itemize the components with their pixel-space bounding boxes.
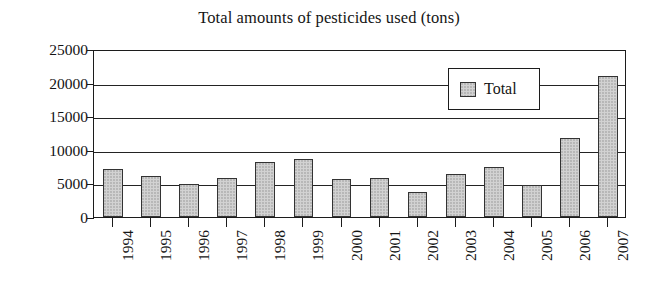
y-tick-label-20000: 20000 xyxy=(2,76,88,91)
bar-1999 xyxy=(294,159,314,218)
x-tick-label-2007: 2007 xyxy=(615,230,631,261)
bar-2003 xyxy=(446,174,466,217)
y-tick-label-10000: 10000 xyxy=(2,143,88,158)
x-tick-mark-1998 xyxy=(264,218,265,227)
x-tick-label-2002: 2002 xyxy=(425,230,441,261)
x-tick-mark-2006 xyxy=(569,218,570,227)
bar-1997 xyxy=(217,178,237,217)
x-tick-label-1997: 1997 xyxy=(234,230,250,261)
x-tick-label-1999: 1999 xyxy=(310,230,326,261)
x-tick-label-1998: 1998 xyxy=(272,230,288,261)
x-tick-mark-2003 xyxy=(455,218,456,227)
gridline-5000 xyxy=(94,185,625,186)
bar-1998 xyxy=(255,162,275,217)
y-tick-label-5000: 5000 xyxy=(2,176,88,191)
x-tick-label-2004: 2004 xyxy=(501,230,517,261)
legend-swatch-total xyxy=(460,82,476,97)
x-tick-label-2006: 2006 xyxy=(577,230,593,261)
y-tick-label-0: 0 xyxy=(2,210,88,225)
x-tick-mark-2002 xyxy=(417,218,418,227)
x-tick-mark-1997 xyxy=(226,218,227,227)
bar-2000 xyxy=(332,179,352,217)
chart-title: Total amounts of pesticides used (tons) xyxy=(0,8,658,28)
plot-area xyxy=(93,50,626,218)
gridline-15000 xyxy=(94,118,625,119)
bar-2006 xyxy=(560,138,580,217)
bar-2005 xyxy=(522,185,542,217)
x-tick-label-2003: 2003 xyxy=(463,230,479,261)
x-tick-label-2001: 2001 xyxy=(387,230,403,261)
x-tick-mark-1994 xyxy=(112,218,113,227)
bar-1996 xyxy=(179,184,199,217)
x-tick-label-1994: 1994 xyxy=(120,230,136,261)
x-tick-label-2005: 2005 xyxy=(539,230,555,261)
y-axis: 0500010000150002000025000 xyxy=(0,0,88,296)
bar-2002 xyxy=(408,192,428,217)
bar-1995 xyxy=(141,176,161,217)
x-tick-label-2000: 2000 xyxy=(349,230,365,261)
y-tick-label-25000: 25000 xyxy=(2,42,88,57)
x-axis: 1994199519961997199819992000200120022003… xyxy=(93,218,626,296)
x-tick-mark-2005 xyxy=(531,218,532,227)
x-tick-mark-1999 xyxy=(302,218,303,227)
x-tick-label-1996: 1996 xyxy=(196,230,212,261)
bar-2001 xyxy=(370,178,390,217)
x-tick-mark-1995 xyxy=(150,218,151,227)
x-tick-mark-2007 xyxy=(607,218,608,227)
x-tick-mark-2001 xyxy=(379,218,380,227)
x-tick-label-1995: 1995 xyxy=(158,230,174,261)
x-tick-mark-2000 xyxy=(341,218,342,227)
gridline-10000 xyxy=(94,152,625,153)
bar-1994 xyxy=(103,169,123,217)
chart-legend: Total xyxy=(448,68,540,110)
bar-2007 xyxy=(598,76,618,217)
bar-2004 xyxy=(484,167,504,217)
x-tick-mark-2004 xyxy=(493,218,494,227)
y-tick-label-15000: 15000 xyxy=(2,109,88,124)
x-tick-mark-1996 xyxy=(188,218,189,227)
legend-label-total: Total xyxy=(484,80,517,98)
gridline-20000 xyxy=(94,85,625,86)
chart-figure: Total amounts of pesticides used (tons) … xyxy=(0,0,658,296)
